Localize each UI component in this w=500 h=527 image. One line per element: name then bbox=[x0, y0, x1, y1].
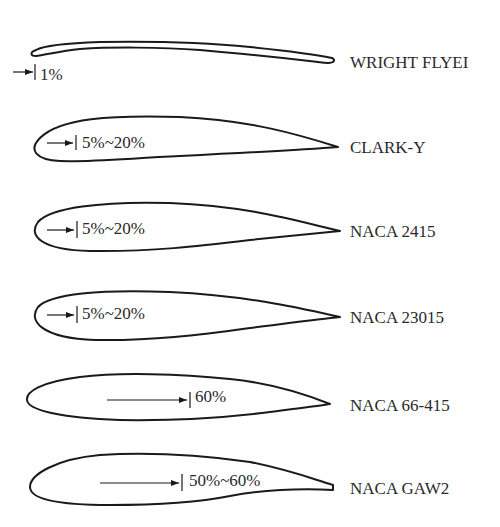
airfoil-outline-wright bbox=[32, 42, 335, 63]
airfoil-naca-66-415: 60% NACA 66-415 bbox=[27, 374, 450, 420]
airfoil-outline-naca-23015 bbox=[35, 291, 340, 340]
airfoil-name-label: NACA 23015 bbox=[350, 308, 444, 327]
thickness-position-label: 5%~20% bbox=[82, 219, 145, 238]
airfoil-outline-clark-y bbox=[34, 116, 338, 161]
thickness-position-label: 1% bbox=[40, 65, 63, 84]
airfoil-clark-y: 5%~20% CLARK-Y bbox=[34, 116, 425, 161]
airfoil-naca-gaw2: 50%~60% NACA GAW2 bbox=[30, 454, 449, 505]
thickness-position-label: 50%~60% bbox=[189, 471, 261, 490]
airfoil-name-label: NACA GAW2 bbox=[350, 479, 449, 498]
airfoil-wright-flyer: 1% WRIGHT FLYEI bbox=[13, 42, 469, 84]
thickness-position-label: 5%~20% bbox=[82, 133, 145, 152]
airfoil-name-label: NACA 66-415 bbox=[350, 396, 450, 415]
airfoil-name-label: WRIGHT FLYEI bbox=[350, 53, 469, 72]
airfoil-outline-naca-66-415 bbox=[27, 374, 330, 420]
thickness-position-label: 5%~20% bbox=[82, 304, 145, 323]
airfoil-name-label: CLARK-Y bbox=[350, 138, 426, 157]
airfoil-naca-23015: 5%~20% NACA 23015 bbox=[35, 291, 444, 340]
airfoil-outline-naca-2415 bbox=[35, 203, 340, 251]
thickness-position-label: 60% bbox=[195, 387, 226, 406]
airfoil-comparison-diagram: 1% WRIGHT FLYEI 5%~20% CLARK-Y 5%~20% NA… bbox=[0, 0, 500, 527]
airfoil-name-label: NACA 2415 bbox=[350, 222, 435, 241]
airfoil-naca-2415: 5%~20% NACA 2415 bbox=[35, 203, 436, 251]
